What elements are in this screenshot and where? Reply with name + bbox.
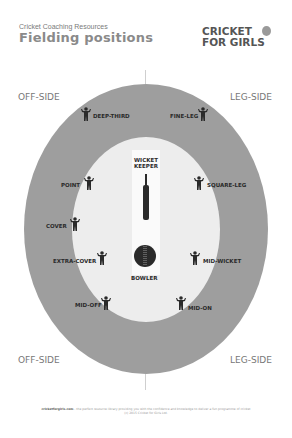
leg-side-label-bottom: LEG-SIDE <box>230 355 272 365</box>
fielder-icon <box>69 217 81 231</box>
position-extra-cover: EXTRA-COVER <box>53 258 96 264</box>
fielder-icon <box>175 296 187 310</box>
position-fine-leg: FINE-LEG <box>170 113 198 119</box>
fielder-icon <box>83 176 95 190</box>
leg-side-label-top: LEG-SIDE <box>230 92 272 102</box>
fielder-icon <box>189 251 201 265</box>
fielder-icon <box>197 107 209 121</box>
top-divider <box>145 70 146 84</box>
position-square-leg: SQUARE-LEG <box>207 182 246 188</box>
footer-site-link[interactable]: cricketforgirls.com <box>41 407 73 411</box>
position-bowler: BOWLER <box>131 275 157 281</box>
position-mid-off: MID-OFF <box>75 302 102 308</box>
fielder-icon <box>96 251 108 265</box>
subtitle: Cricket Coaching Resources <box>19 23 108 30</box>
off-side-label-top: OFF-SIDE <box>18 92 60 102</box>
cricket-bat-icon <box>142 174 150 220</box>
position-point: POINT <box>61 182 80 188</box>
fielder-icon <box>193 176 205 190</box>
position-wicket-keeper: WICKET KEEPER <box>133 157 159 169</box>
logo: CRICKET FOR GIRLS <box>202 26 265 48</box>
position-cover: COVER <box>46 223 67 229</box>
cricket-ball-logo-icon <box>262 26 271 36</box>
fielder-icon <box>100 296 112 310</box>
position-deep-third: DEEP-THIRD <box>93 113 130 119</box>
fielder-icon <box>80 107 92 121</box>
position-mid-wicket: MID-WICKET <box>203 258 241 264</box>
footer-copyright: (c) 2015 Cricket for Girls Ltd. <box>30 411 262 415</box>
bottom-divider <box>145 374 146 390</box>
off-side-label-bottom: OFF-SIDE <box>18 355 60 365</box>
logo-line-2: FOR GIRLS <box>202 37 265 48</box>
wicket-keeper-line-2: KEEPER <box>133 163 159 169</box>
position-mid-on: MID-ON <box>188 305 212 311</box>
page-title: Fielding positions <box>19 30 153 45</box>
cricket-ball-icon <box>133 244 157 268</box>
footer: cricketforgirls.com - the perfect resour… <box>30 407 262 415</box>
